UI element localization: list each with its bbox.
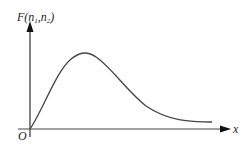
- x-axis-label: x: [232, 122, 239, 136]
- density-curve: [30, 53, 212, 129]
- y-axis-label: F(n1,n2): [16, 10, 54, 25]
- f-distribution-diagram: F(n1,n2) x O: [0, 0, 248, 153]
- origin-label: O: [18, 129, 27, 143]
- x-axis-arrow-icon: [220, 126, 231, 133]
